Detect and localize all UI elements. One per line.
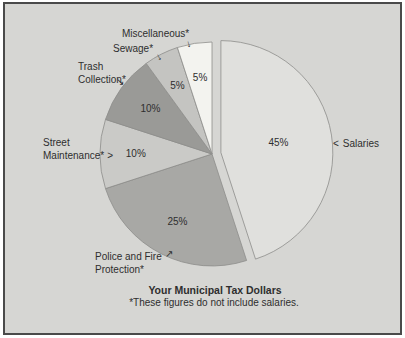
callout-salaries: <Salaries — [333, 138, 379, 151]
left-arrow-icon: < — [333, 138, 339, 149]
slice-percent-label: 10% — [140, 103, 160, 114]
down-right-arrow-icon: ↘ — [116, 76, 124, 87]
slice-percent-label: 45% — [268, 137, 288, 148]
callout-police-line1: Police and Fire — [95, 251, 162, 262]
callout-salaries-text: Salaries — [343, 138, 379, 149]
right-arrow-icon: > — [107, 150, 113, 161]
callout-trash-line1: Trash — [78, 61, 103, 72]
callout-police-fire: Police and Fire↗ Protection* — [95, 251, 173, 276]
slice-percent-label: 25% — [167, 216, 187, 227]
slice-percent-label: 5% — [170, 80, 185, 91]
callout-sewage: Sewage* — [113, 43, 153, 56]
callout-street-line2: Maintenance* — [43, 150, 104, 161]
slice-percent-label: 5% — [193, 72, 208, 83]
slice-percent-label: 10% — [126, 148, 146, 159]
callout-miscellaneous: Miscellaneous* — [122, 28, 189, 41]
callout-police-line2: Protection* — [95, 264, 144, 275]
pie-slice-salaries — [221, 41, 333, 260]
callout-street-maintenance: Street Maintenance*> — [43, 137, 113, 162]
chart-title: Your Municipal Tax Dollars — [148, 284, 281, 296]
callout-street-line1: Street — [43, 137, 70, 148]
callout-miscellaneous-text: Miscellaneous* — [122, 28, 189, 39]
callout-sewage-text: Sewage* — [113, 43, 153, 54]
chart-footnote: *These figures do not include salaries. — [129, 297, 299, 308]
up-right-arrow-icon: ↗ — [165, 248, 173, 259]
